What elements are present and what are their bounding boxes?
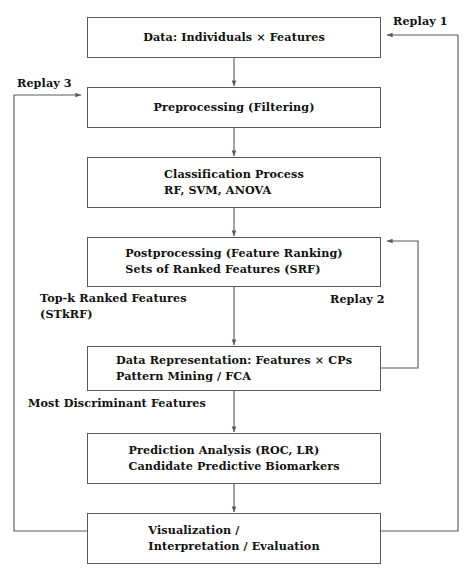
edge-label-most-discriminant: Most Discriminant Features xyxy=(28,396,206,412)
node-data-label: Data: Individuals × Features xyxy=(143,30,325,46)
edge-replay-1 xyxy=(381,35,458,531)
edge-replay-2 xyxy=(381,241,418,368)
node-prediction-label: Prediction Analysis (ROC, LR) Candidate … xyxy=(128,443,339,475)
node-classification-label: Classification Process RF, SVM, ANOVA xyxy=(164,167,304,199)
node-data[interactable]: Data: Individuals × Features xyxy=(87,17,381,58)
edge-label-replay-2: Replay 2 xyxy=(330,292,385,308)
flowchart-diagram: Data: Individuals × Features Preprocessi… xyxy=(0,0,467,578)
edge-label-top-k-ranked: Top-k Ranked Features (STkRF) xyxy=(40,291,187,323)
node-classification[interactable]: Classification Process RF, SVM, ANOVA xyxy=(87,157,381,208)
node-preprocessing-label: Preprocessing (Filtering) xyxy=(153,100,314,116)
node-postprocessing-label: Postprocessing (Feature Ranking) Sets of… xyxy=(125,246,342,278)
edge-label-replay-3: Replay 3 xyxy=(17,76,72,92)
node-representation[interactable]: Data Representation: Features × CPs Patt… xyxy=(87,346,381,391)
node-visualization-label: Visualization / Interpretation / Evaluat… xyxy=(148,523,319,555)
node-postprocessing[interactable]: Postprocessing (Feature Ranking) Sets of… xyxy=(87,237,381,287)
node-visualization[interactable]: Visualization / Interpretation / Evaluat… xyxy=(87,513,381,564)
node-preprocessing[interactable]: Preprocessing (Filtering) xyxy=(87,87,381,128)
edge-label-replay-1: Replay 1 xyxy=(393,14,448,30)
node-prediction[interactable]: Prediction Analysis (ROC, LR) Candidate … xyxy=(87,433,381,484)
node-representation-label: Data Representation: Features × CPs Patt… xyxy=(116,353,352,385)
